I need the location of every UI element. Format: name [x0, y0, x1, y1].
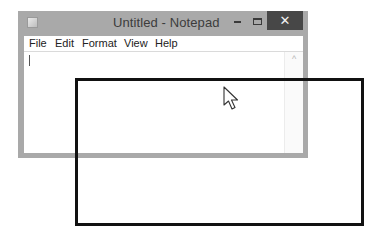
- close-icon: ✕: [280, 14, 291, 27]
- menu-edit[interactable]: Edit: [55, 37, 74, 49]
- title-bar[interactable]: Untitled - Notepad ✕: [18, 11, 308, 36]
- maximize-icon: [253, 18, 262, 25]
- text-caret: [29, 55, 30, 66]
- menu-format[interactable]: Format: [82, 37, 117, 49]
- notepad-app-icon[interactable]: [27, 17, 38, 28]
- mouse-pointer-icon: [223, 86, 241, 112]
- menu-view[interactable]: View: [124, 37, 148, 49]
- menu-bar: File Edit Format View Help: [24, 36, 303, 52]
- selection-rectangle: [75, 78, 364, 226]
- scroll-up-arrow-icon[interactable]: ^: [285, 54, 303, 64]
- minimize-button[interactable]: [230, 11, 244, 31]
- close-button[interactable]: ✕: [267, 11, 303, 30]
- minimize-icon: [234, 21, 241, 23]
- menu-file[interactable]: File: [29, 37, 47, 49]
- window-title: Untitled - Notepad: [113, 15, 220, 30]
- menu-help[interactable]: Help: [155, 37, 178, 49]
- maximize-button[interactable]: [250, 11, 264, 31]
